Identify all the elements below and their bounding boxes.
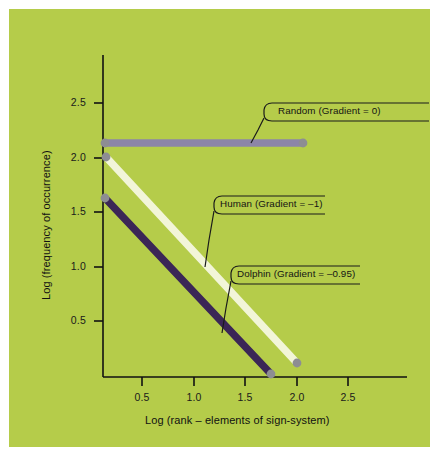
y-tick-label-0-5: 0.5 xyxy=(56,314,86,326)
chart-figure-root: 2.5 2.0 1.5 1.0 0.5 0.5 1.0 1.5 2.0 2.5 … xyxy=(0,0,439,456)
human-callout-label: Human (Gradient = –1) xyxy=(220,198,323,209)
x-tick-label-0-5: 0.5 xyxy=(125,391,159,403)
x-tick-label-1-0: 1.0 xyxy=(177,391,211,403)
x-tick-label-2-0: 2.0 xyxy=(280,391,314,403)
random-callout-label: Random (Gradient = 0) xyxy=(278,105,381,116)
y-tick-label-1-5: 1.5 xyxy=(56,205,86,217)
human-leader xyxy=(205,211,214,267)
chart-canvas xyxy=(0,0,439,456)
x-tick-label-2-5: 2.5 xyxy=(331,391,365,403)
y-tick-label-1-0: 1.0 xyxy=(56,260,86,272)
series-random xyxy=(101,139,308,148)
series-dolphin xyxy=(101,194,276,379)
series-human xyxy=(102,153,302,368)
y-tick-label-2-5: 2.5 xyxy=(56,96,86,108)
x-tick-label-1-5: 1.5 xyxy=(228,391,262,403)
x-axis-ticks xyxy=(142,377,348,386)
y-tick-label-2-0: 2.0 xyxy=(56,151,86,163)
x-axis-title: Log (rank – elements of sign-system) xyxy=(145,414,330,426)
y-axis-title: Log (frequency of occurrence) xyxy=(40,150,52,300)
y-axis-ticks xyxy=(94,103,103,321)
dolphin-callout-label: Dolphin (Gradient = –0.95) xyxy=(237,268,355,279)
